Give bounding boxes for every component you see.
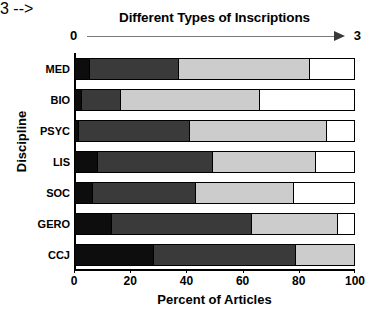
bar-segment: [78, 121, 190, 141]
bar-segment: [259, 90, 354, 110]
y-tick-label-ccj: CCJ: [4, 249, 70, 261]
bar-segment: [309, 59, 354, 79]
bar-segment: [97, 152, 211, 172]
bar-segment: [89, 59, 178, 79]
top-scale-axis: 0 3: [66, 27, 364, 47]
bar-lis: [74, 151, 355, 173]
bar-segment: [315, 152, 354, 172]
x-tick-mark: [243, 269, 244, 273]
bar-soc: [74, 182, 355, 204]
bar-segment: [195, 183, 293, 203]
bar-segment: [189, 121, 326, 141]
x-tick-mark: [74, 269, 75, 273]
bar-psyc: [74, 120, 355, 142]
chart-title: Different Types of Inscriptions: [74, 10, 355, 25]
bar-segment: [75, 214, 111, 234]
x-tick-label-60: 60: [236, 274, 249, 288]
arrow-right-icon: [334, 31, 345, 41]
x-tick-mark: [186, 269, 187, 273]
y-tick-label-med: MED: [4, 63, 70, 75]
x-tick-label-100: 100: [345, 274, 365, 288]
x-axis-title: Percent of Articles: [74, 292, 355, 307]
bar-segment: [212, 152, 315, 172]
y-axis-tick-labels: MEDBIOPSYCLISSOCGEROCCJ: [0, 53, 70, 271]
x-tick-label-80: 80: [292, 274, 305, 288]
bar-segment: [153, 245, 295, 265]
top-scale-line: [87, 36, 337, 37]
chart-figure: Different Types of Inscriptions 3 --> 0 …: [0, 0, 372, 321]
bar-segment: [178, 59, 309, 79]
bar-segment: [337, 214, 354, 234]
bar-segment: [293, 183, 354, 203]
bar-segment: [75, 59, 89, 79]
plot-area: [74, 53, 355, 271]
bar-segment: [326, 121, 354, 141]
bar-segment: [75, 183, 92, 203]
x-tick-mark: [354, 269, 355, 273]
x-tick-label-20: 20: [124, 274, 137, 288]
bar-segment: [251, 214, 337, 234]
x-tick-mark: [299, 269, 300, 273]
y-tick-label-gero: GERO: [4, 218, 70, 230]
x-tick-mark: [130, 269, 131, 273]
bar-segment: [295, 245, 354, 265]
bar-ccj: [74, 244, 355, 266]
top-scale-max-label: 3: [354, 28, 361, 43]
bar-segment: [92, 183, 195, 203]
y-tick-label-bio: BIO: [4, 94, 70, 106]
y-tick-label-lis: LIS: [4, 156, 70, 168]
bar-segment: [120, 90, 260, 110]
bar-med: [74, 58, 355, 80]
bar-segment: [81, 90, 120, 110]
bar-segment: [111, 214, 251, 234]
x-tick-label-0: 0: [71, 274, 78, 288]
x-axis-tick-labels: 020406080100: [74, 274, 355, 290]
bar-gero: [74, 213, 355, 235]
y-tick-label-psyc: PSYC: [4, 125, 70, 137]
top-scale-min-label: 0: [70, 28, 77, 43]
bar-bio: [74, 89, 355, 111]
bar-segment: [75, 152, 97, 172]
x-tick-label-40: 40: [180, 274, 193, 288]
x-axis-line: [74, 269, 355, 271]
bar-segment: [75, 245, 153, 265]
y-tick-label-soc: SOC: [4, 187, 70, 199]
